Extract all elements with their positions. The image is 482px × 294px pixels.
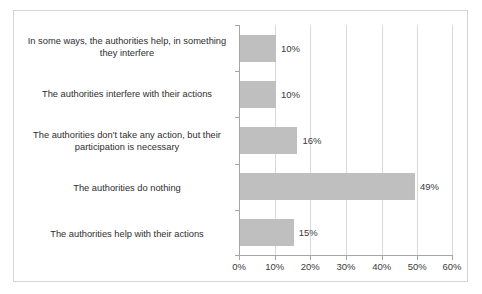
bar-do-nothing — [240, 173, 415, 200]
bar-interfere — [240, 81, 276, 108]
category-label: The authorities help with their actions — [18, 228, 236, 240]
x-tick-label: 60% — [442, 261, 461, 272]
plot-area: 10% 10% 16% 49% 15% — [239, 25, 453, 256]
gridline-60 — [452, 25, 453, 256]
category-axis-labels: In some ways, the authorities help, in s… — [14, 25, 236, 256]
bar-help-with-actions — [240, 219, 294, 246]
y-axis-tick — [235, 71, 239, 72]
x-axis-tick — [417, 256, 418, 260]
chart-frame: In some ways, the authorities help, in s… — [13, 10, 468, 282]
x-axis-tick — [346, 256, 347, 260]
bar-value-label: 10% — [281, 43, 300, 54]
x-axis-tick — [310, 256, 311, 260]
bar-value-label: 16% — [302, 135, 321, 146]
x-tick-label: 40% — [372, 261, 391, 272]
gridline-40 — [382, 25, 383, 256]
category-label: The authorities don't take any action, b… — [18, 129, 236, 153]
bar-in-some-ways — [240, 35, 276, 62]
category-label: The authorities interfere with their act… — [18, 88, 236, 100]
x-axis-tick — [275, 256, 276, 260]
gridline-30 — [346, 25, 347, 256]
bar-value-label: 15% — [299, 227, 318, 238]
x-tick-label: 0% — [232, 261, 246, 272]
bar-value-label: 10% — [281, 89, 300, 100]
y-axis-tick — [235, 117, 239, 118]
bar-value-label: 49% — [420, 181, 439, 192]
x-axis-tick — [452, 256, 453, 260]
y-axis-tick — [235, 25, 239, 26]
x-tick-label: 30% — [336, 261, 355, 272]
x-axis-tick-labels: 0% 10% 20% 30% 40% 50% 60% — [239, 261, 461, 277]
y-axis-tick — [235, 164, 239, 165]
category-label: The authorities do nothing — [18, 182, 236, 194]
category-label: In some ways, the authorities help, in s… — [18, 35, 236, 59]
x-axis-tick — [239, 256, 240, 260]
x-tick-label: 20% — [301, 261, 320, 272]
y-axis-tick — [235, 210, 239, 211]
x-axis-tick — [382, 256, 383, 260]
x-tick-label: 50% — [408, 261, 427, 272]
gridline-50 — [417, 25, 418, 256]
bar-no-action — [240, 127, 297, 154]
x-tick-label: 10% — [265, 261, 284, 272]
